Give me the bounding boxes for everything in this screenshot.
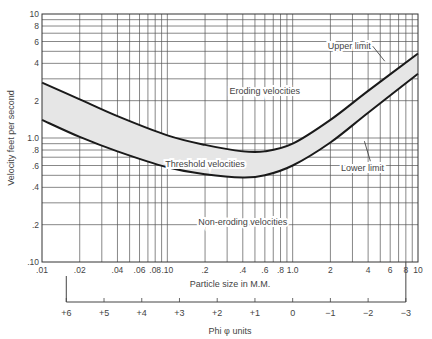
svg-text:.08: .08	[149, 265, 161, 275]
svg-text:.2: .2	[202, 265, 209, 275]
svg-text:+2: +2	[212, 308, 222, 318]
svg-text:10: 10	[30, 9, 40, 19]
svg-text:.10: .10	[27, 257, 39, 267]
svg-text:6: 6	[34, 37, 39, 47]
svg-text:.10: .10	[161, 265, 173, 275]
svg-text:−2: −2	[363, 308, 373, 318]
svg-text:8: 8	[34, 21, 39, 31]
svg-text:4: 4	[34, 58, 39, 68]
svg-text:10: 10	[413, 265, 423, 275]
svg-text:6: 6	[388, 265, 393, 275]
svg-text:+4: +4	[137, 308, 147, 318]
region-label: Eroding velocities	[230, 86, 301, 96]
region-label: Non-eroding velocities	[198, 217, 288, 227]
svg-text:.04: .04	[112, 265, 124, 275]
svg-text:+6: +6	[61, 308, 71, 318]
region-labels: Eroding velocitiesThreshold velocitiesNo…	[165, 41, 384, 227]
y-axis-ticks: 1086421.0.8.6.4.2.10	[27, 9, 39, 267]
upper-limit-label: Upper limit	[328, 41, 372, 51]
svg-text:1.0: 1.0	[27, 133, 39, 143]
chart: Eroding velocitiesThreshold velocitiesNo…	[0, 0, 432, 339]
svg-text:.8: .8	[277, 265, 284, 275]
phi-axis-label: Phi φ units	[209, 326, 252, 336]
svg-text:+3: +3	[174, 308, 184, 318]
svg-text:2: 2	[34, 96, 39, 106]
y-axis-label: Velocity feet per second	[6, 90, 16, 186]
region-label: Threshold velocities	[165, 159, 245, 169]
lower-limit-label: Lower limit	[341, 163, 385, 173]
svg-text:.2: .2	[32, 220, 39, 230]
svg-text:.6: .6	[261, 265, 268, 275]
svg-text:.4: .4	[239, 265, 246, 275]
svg-text:0: 0	[290, 308, 295, 318]
svg-text:−1: −1	[325, 308, 335, 318]
svg-text:.4: .4	[32, 182, 39, 192]
svg-text:1.0: 1.0	[287, 265, 299, 275]
svg-text:.06: .06	[134, 265, 146, 275]
x-axis-ticks: .01.02.04.06.08.10.2.4.6.81.0246810	[36, 265, 423, 275]
svg-text:+1: +1	[250, 308, 260, 318]
svg-text:.6: .6	[32, 161, 39, 171]
svg-text:.02: .02	[74, 265, 86, 275]
x-axis-label: Particle size in M.M.	[190, 279, 271, 289]
svg-text:−3: −3	[401, 308, 411, 318]
svg-text:+5: +5	[99, 308, 109, 318]
svg-text:4: 4	[366, 265, 371, 275]
svg-text:.8: .8	[32, 145, 39, 155]
svg-text:2: 2	[328, 265, 333, 275]
